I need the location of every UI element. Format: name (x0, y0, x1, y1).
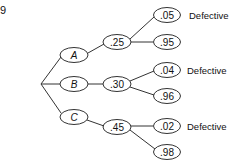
leaf-a1-prob: .05 (160, 10, 174, 21)
probability-tree-diagram: A B C .25 .30 .45 .05 .95 .04 .96 .02 .9… (0, 0, 231, 166)
prob-c: .45 (110, 122, 124, 133)
defective-label-a: Defective (189, 10, 229, 21)
leaf-a2-prob: .95 (160, 37, 174, 48)
prob-a: .25 (110, 37, 124, 48)
defective-label-c: Defective (187, 121, 227, 132)
leaf-b1-prob: .04 (160, 65, 174, 76)
leaf-c1-prob: .02 (160, 121, 174, 132)
label-c: C (70, 112, 78, 123)
label-a: A (70, 50, 78, 61)
leaf-c2-prob: .98 (160, 147, 174, 158)
defective-label-b: Defective (187, 65, 227, 76)
prob-b: .30 (110, 79, 124, 90)
leaf-b2-prob: .96 (160, 91, 174, 102)
label-b: B (71, 79, 78, 90)
